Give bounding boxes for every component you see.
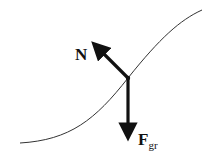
gravity-force-label-sub: gr	[148, 139, 158, 151]
normal-force-label: N	[75, 45, 88, 64]
gravity-force-label: Fgr	[138, 130, 158, 151]
normal-force-arrow	[98, 48, 128, 78]
force-diagram: N Fgr	[0, 0, 217, 155]
contact-point	[126, 76, 130, 80]
slope-curve	[20, 10, 202, 143]
gravity-force-label-main: F	[138, 130, 148, 149]
